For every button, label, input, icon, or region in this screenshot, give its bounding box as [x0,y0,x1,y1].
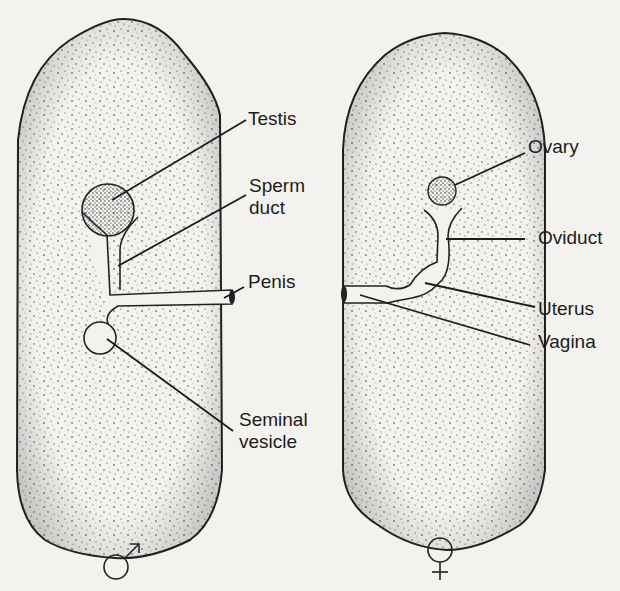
vagina-opening [341,286,347,302]
label-sperm-duct-line1: Sperm [249,175,305,197]
seminal-vesicle [84,322,116,354]
label-testis: Testis [248,108,297,130]
label-sperm-duct-line2: duct [249,197,285,219]
ovary [428,177,456,205]
reproductive-system-diagram [0,0,620,591]
label-ovary: Ovary [528,136,579,158]
label-seminal-vesicle-line2: vesicle [239,431,297,453]
label-seminal-vesicle-line1: Seminal [239,409,308,431]
label-penis: Penis [248,271,296,293]
label-oviduct: Oviduct [538,227,602,249]
label-uterus: Uterus [538,298,594,320]
label-vagina: Vagina [538,331,596,353]
